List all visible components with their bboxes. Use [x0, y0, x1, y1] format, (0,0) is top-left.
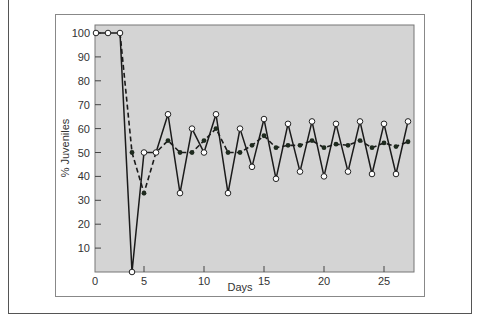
open-circle-marker	[225, 190, 231, 196]
filled-dot-marker	[346, 143, 351, 148]
open-circle-marker	[381, 121, 387, 127]
filled-dot-marker	[394, 144, 399, 149]
filled-dot-marker	[226, 150, 231, 155]
y-tick-label: 50	[78, 147, 90, 159]
y-tick-label: 20	[78, 218, 90, 230]
filled-dot-marker	[334, 142, 339, 147]
filled-dot-marker	[190, 150, 195, 155]
open-circle-marker	[261, 116, 267, 122]
y-tick-label: 100	[72, 27, 90, 39]
filled-dot-marker	[202, 138, 207, 143]
open-circle-marker	[273, 176, 279, 182]
filled-dot-marker	[238, 150, 243, 155]
x-axis-title: Days	[227, 281, 253, 293]
open-circle-marker	[345, 169, 351, 175]
open-circle-marker	[333, 121, 339, 127]
open-circle-marker	[309, 119, 315, 125]
open-circle-marker	[213, 111, 219, 117]
filled-dot-marker	[406, 139, 411, 144]
filled-dot-marker	[274, 145, 279, 150]
open-circle-marker	[105, 30, 111, 36]
open-circle-marker	[357, 119, 363, 125]
filled-dot-marker	[130, 150, 135, 155]
filled-dot-marker	[250, 143, 255, 148]
open-circle-marker	[237, 126, 243, 132]
open-circle-marker	[201, 150, 207, 156]
y-tick-label: 70	[78, 99, 90, 111]
filled-dot-marker	[262, 133, 267, 138]
open-circle-marker	[177, 190, 183, 196]
filled-dot-marker	[322, 145, 327, 150]
open-circle-marker	[249, 164, 255, 170]
open-circle-marker	[93, 30, 99, 36]
x-tick-label: 10	[198, 275, 210, 287]
filled-dot-marker	[382, 141, 387, 146]
open-circle-marker	[189, 126, 195, 132]
filled-dot-marker	[286, 143, 291, 148]
filled-dot-marker	[214, 126, 219, 131]
x-tick-label: 20	[318, 275, 330, 287]
filled-dot-marker	[178, 150, 183, 155]
y-axis-title: % Juveniles	[59, 118, 71, 177]
open-circle-marker	[405, 119, 411, 125]
y-tick-label: 10	[78, 242, 90, 254]
y-tick-label: 40	[78, 170, 90, 182]
y-tick-label: 80	[78, 75, 90, 87]
y-tick-label: 30	[78, 194, 90, 206]
filled-dot-marker	[310, 138, 315, 143]
open-circle-marker	[165, 111, 171, 117]
x-tick-label: 0	[92, 275, 98, 287]
open-circle-marker	[321, 174, 327, 180]
filled-dot-marker	[142, 191, 147, 196]
filled-dot-marker	[358, 138, 363, 143]
y-tick-label: 60	[78, 123, 90, 135]
y-tick-label: 90	[78, 51, 90, 63]
open-circle-marker	[153, 150, 159, 156]
x-tick-label: 15	[258, 275, 270, 287]
open-circle-marker	[129, 269, 135, 275]
x-tick-label: 25	[378, 275, 390, 287]
open-circle-marker	[285, 121, 291, 127]
open-circle-marker	[369, 171, 375, 177]
x-tick-label: 5	[141, 275, 147, 287]
filled-dot-marker	[166, 138, 171, 143]
filled-dot-marker	[298, 143, 303, 148]
open-circle-marker	[141, 150, 147, 156]
open-circle-marker	[297, 169, 303, 175]
filled-dot-marker	[370, 145, 375, 150]
open-circle-marker	[117, 30, 123, 36]
open-circle-marker	[393, 171, 399, 177]
line-chart: 102030405060708090100 0510152025 Days % …	[0, 0, 480, 328]
